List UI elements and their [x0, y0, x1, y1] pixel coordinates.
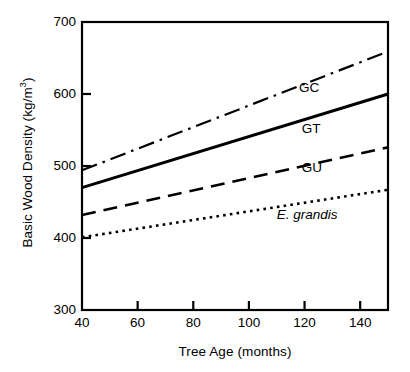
x-tick-label: 40 [52, 316, 112, 330]
y-tick-label-text: 300 [36, 303, 76, 317]
x-tick-label-text: 120 [275, 316, 335, 330]
y-tick-label-text: 600 [36, 87, 76, 101]
series-annotation-label: E. grandis [277, 208, 338, 222]
x-tick-label-text: 140 [330, 316, 390, 330]
x-tick-label-text: 100 [219, 316, 279, 330]
y-axis-label-tail: ) [20, 77, 35, 82]
y-tick-label-text: 500 [36, 159, 76, 173]
x-tick-label-text: 60 [108, 316, 168, 330]
series-annotation-label: GC [299, 81, 319, 95]
x-axis-label: Tree Age (months) [82, 344, 388, 359]
y-axis-label-text: Basic Wood Density (kg/m [20, 87, 35, 247]
x-tick-label: 60 [108, 316, 168, 330]
x-tick-label: 80 [163, 316, 223, 330]
x-tick-label-text: 40 [52, 316, 112, 330]
y-axis-label-exponent: 3 [18, 82, 28, 87]
x-tick-label: 100 [219, 316, 279, 330]
chart-container: Basic Wood Density (kg/m3) Tree Age (mon… [0, 0, 410, 372]
series-annotation-label: GU [302, 161, 322, 175]
y-tick-label-text: 400 [36, 231, 76, 245]
plot-frame [82, 22, 388, 310]
x-tick-label-text: 80 [163, 316, 223, 330]
x-tick-label: 140 [330, 316, 390, 330]
y-tick-label-text: 700 [36, 15, 76, 29]
y-axis-label: Basic Wood Density (kg/m3) [20, 38, 35, 288]
x-tick-label: 120 [275, 316, 335, 330]
series-annotation-label: GT [302, 122, 321, 136]
